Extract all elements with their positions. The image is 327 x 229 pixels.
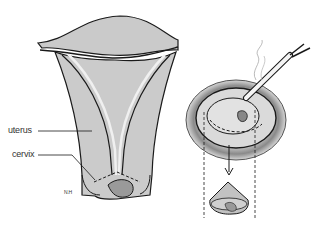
label-cervix: cervix: [12, 149, 34, 159]
label-uterus: uterus: [8, 125, 32, 135]
illustration: [0, 0, 327, 229]
uterus-illustration: [38, 16, 178, 199]
cone-biopsy-diagram: uterus cervix N.H: [0, 0, 327, 229]
artist-signature: N.H: [64, 189, 72, 195]
cervix-excision-illustration: [186, 40, 310, 218]
